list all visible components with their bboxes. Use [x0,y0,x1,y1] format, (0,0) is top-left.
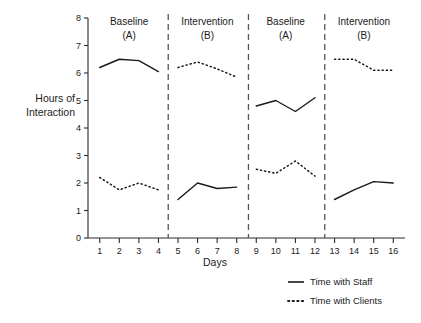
y-tick-label-5: 5 [76,96,81,106]
phase-label-4-line2: (B) [357,30,370,41]
y-axis: 012345678 [76,13,88,243]
x-tick-label-10: 10 [271,246,281,256]
legend-label-1: Time with Staff [310,276,373,287]
y-tick-label-3: 3 [76,151,81,161]
x-tick-label-1: 1 [97,246,102,256]
phase-dividers [168,14,325,238]
x-tick-label-12: 12 [310,246,320,256]
x-tick-label-2: 2 [117,246,122,256]
y-tick-label-7: 7 [76,41,81,51]
legend-label-2: Time with Clients [310,295,382,306]
x-axis: 12345678910111213141516 [88,238,405,256]
x-tick-label-11: 11 [291,246,300,256]
line-chart: Hours of Interaction Days 012345678 1234… [0,0,421,323]
y-tick-label-2: 2 [76,178,81,188]
x-tick-label-8: 8 [234,246,239,256]
x-tick-label-14: 14 [349,246,359,256]
x-tick-label-9: 9 [254,246,259,256]
chart-container: Hours of Interaction Days 012345678 1234… [0,0,421,323]
phase-label-2-line2: (B) [201,30,214,41]
y-axis-label-line2: Interaction [26,106,75,118]
x-tick-label-6: 6 [195,246,200,256]
series-2-segment-2 [178,62,237,77]
phase-label-3-line1: Baseline [266,16,305,27]
x-tick-label-15: 15 [369,246,379,256]
x-tick-label-4: 4 [156,246,161,256]
phase-label-3-line2: (A) [279,30,292,41]
y-tick-label-8: 8 [76,13,81,23]
y-tick-label-1: 1 [76,206,81,216]
phase-label-1-line2: (A) [122,30,135,41]
series-1-segment-2 [178,183,237,200]
x-tick-label-3: 3 [136,246,141,256]
phase-label-2-line1: Intervention [181,16,233,27]
series-2-segment-1 [100,178,159,190]
series-1-segment-4 [335,182,394,200]
x-tick-label-13: 13 [330,246,340,256]
y-tick-label-0: 0 [76,233,81,243]
data-series [100,59,394,199]
phase-label-4-line1: Intervention [338,16,390,27]
x-tick-label-7: 7 [215,246,220,256]
series-2-segment-3 [256,161,315,176]
series-1-segment-1 [100,59,159,71]
phase-labels: Baseline(A)Intervention(B)Baseline(A)Int… [110,16,390,41]
series-1-segment-3 [256,98,315,112]
x-axis-label: Days [203,256,227,268]
y-tick-label-6: 6 [76,68,81,78]
x-tick-label-16: 16 [388,246,398,256]
series-2-segment-4 [335,59,394,70]
x-tick-label-5: 5 [176,246,181,256]
chart-legend: Time with StaffTime with Clients [288,276,382,306]
phase-label-1-line1: Baseline [110,16,149,27]
y-tick-label-4: 4 [76,123,81,133]
y-axis-label-line1: Hours of [35,92,75,104]
